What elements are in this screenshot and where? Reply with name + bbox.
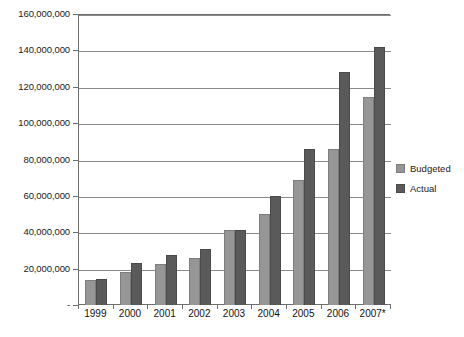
- plot-inner: [79, 15, 390, 305]
- x-tick-label-2001: 2001: [147, 308, 182, 319]
- bar-actual-2007: [374, 47, 385, 305]
- legend-item-actual[interactable]: Actual: [396, 183, 451, 194]
- x-tick-label-2006: 2006: [321, 308, 356, 319]
- plot-area: [78, 14, 390, 305]
- x-tick-label-1999: 1999: [78, 308, 113, 319]
- legend-label: Actual: [410, 183, 436, 194]
- bar-actual-2003: [235, 230, 246, 305]
- bar-budgeted-2007: [363, 97, 374, 305]
- bar-actual-2005: [304, 149, 315, 305]
- bar-actual-2000: [131, 263, 142, 305]
- bar-group: [114, 14, 149, 305]
- y-tick-label: 120,000,000: [0, 81, 70, 92]
- y-tick-label: 160,000,000: [0, 8, 70, 19]
- bar-group: [79, 14, 114, 305]
- legend-label: Budgeted: [410, 163, 451, 174]
- x-tick-mark: [390, 305, 391, 309]
- bar-group: [322, 14, 357, 305]
- chart-legend: BudgetedActual: [396, 163, 451, 194]
- y-tick-label: -: [0, 299, 70, 310]
- x-tick-label-2000: 2000: [113, 308, 148, 319]
- bar-actual-2001: [166, 255, 177, 305]
- x-tick-label-2003: 2003: [217, 308, 252, 319]
- legend-item-budgeted[interactable]: Budgeted: [396, 163, 451, 174]
- y-tick-label: 60,000,000: [0, 190, 70, 201]
- bar-group: [252, 14, 287, 305]
- bar-budgeted-2000: [120, 272, 131, 305]
- legend-swatch-icon: [396, 184, 405, 193]
- bar-budgeted-2001: [155, 264, 166, 305]
- bar-actual-1999: [96, 279, 107, 305]
- y-tick-label: 20,000,000: [0, 263, 70, 274]
- bar-group: [183, 14, 218, 305]
- y-tick-label: 100,000,000: [0, 117, 70, 128]
- bar-group: [287, 14, 322, 305]
- bar-budgeted-1999: [85, 280, 96, 305]
- bar-group: [218, 14, 253, 305]
- bar-budgeted-2006: [328, 149, 339, 305]
- bar-chart: -20,000,00040,000,00060,000,00080,000,00…: [0, 0, 464, 337]
- bar-budgeted-2002: [189, 258, 200, 305]
- bar-budgeted-2005: [293, 180, 304, 305]
- bar-budgeted-2003: [224, 230, 235, 305]
- x-tick-label-2004: 2004: [251, 308, 286, 319]
- x-tick-label-2002: 2002: [182, 308, 217, 319]
- x-tick-label-2005: 2005: [286, 308, 321, 319]
- bar-budgeted-2004: [259, 214, 270, 305]
- bar-actual-2002: [200, 249, 211, 305]
- x-tick-label-2007: 2007*: [355, 308, 390, 319]
- bar-group: [356, 14, 391, 305]
- legend-swatch-icon: [396, 164, 405, 173]
- y-tick-label: 40,000,000: [0, 226, 70, 237]
- y-tick-label: 140,000,000: [0, 44, 70, 55]
- bar-actual-2004: [270, 196, 281, 305]
- bar-group: [148, 14, 183, 305]
- bar-actual-2006: [339, 72, 350, 305]
- y-tick-label: 80,000,000: [0, 154, 70, 165]
